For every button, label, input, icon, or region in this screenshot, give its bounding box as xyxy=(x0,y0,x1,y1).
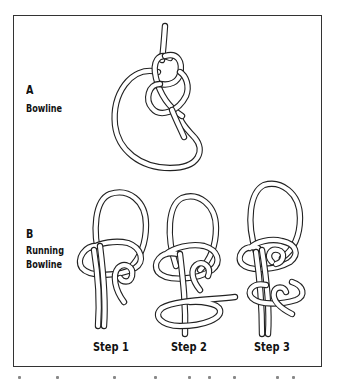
step-2-label: Step 2 xyxy=(171,340,207,354)
caption-glyph-fragment xyxy=(233,376,236,379)
knot-illustrations xyxy=(0,0,337,383)
running-bowline-step1-illustration xyxy=(80,192,146,326)
bowline-knot-illustration xyxy=(115,26,200,168)
running-bowline-step2-illustration xyxy=(156,196,235,334)
step-1-label: Step 1 xyxy=(93,340,129,354)
caption-glyph-fragment xyxy=(208,376,211,379)
caption-glyph-fragment xyxy=(154,376,157,379)
caption-glyph-fragment xyxy=(188,376,191,379)
caption-glyph-fragment xyxy=(276,376,279,379)
running-bowline-step3-illustration xyxy=(240,184,303,334)
cropped-caption-fragment xyxy=(0,374,337,383)
caption-glyph-fragment xyxy=(113,376,116,379)
caption-glyph-fragment xyxy=(292,376,295,379)
caption-glyph-fragment xyxy=(18,376,21,379)
caption-glyph-fragment xyxy=(56,376,59,379)
step-3-label: Step 3 xyxy=(254,340,290,354)
